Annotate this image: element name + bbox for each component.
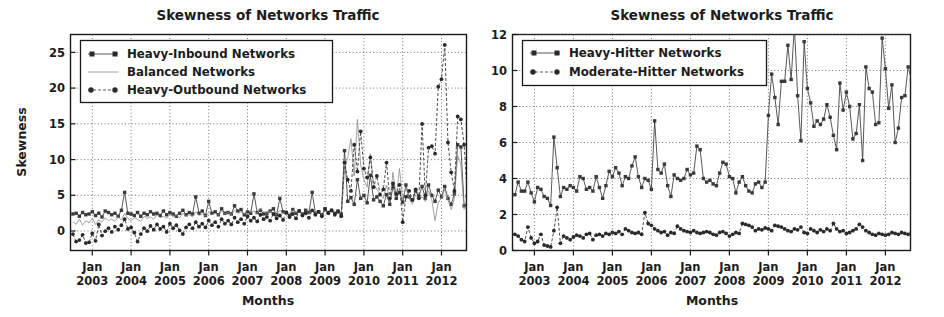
series-marker <box>845 232 849 236</box>
series-marker <box>255 220 259 224</box>
series-marker <box>741 222 745 226</box>
series-marker <box>854 132 857 135</box>
series-marker <box>617 171 620 174</box>
series-marker <box>200 222 204 226</box>
series-marker <box>323 207 327 211</box>
legend-label: Balanced Networks <box>127 65 255 79</box>
series-marker <box>806 87 809 90</box>
series-marker <box>317 210 321 214</box>
series-marker <box>721 161 724 164</box>
series-marker <box>572 235 576 239</box>
series-marker <box>310 208 314 212</box>
square-marker-icon <box>90 52 95 57</box>
series-marker <box>598 186 601 189</box>
series-marker <box>828 229 832 233</box>
series-marker <box>565 188 568 191</box>
series-marker <box>272 207 275 210</box>
series-marker <box>624 175 627 178</box>
xtick-label-year: 2003 <box>76 274 108 288</box>
series-marker <box>611 231 615 235</box>
series-marker <box>116 228 120 232</box>
series-marker <box>559 241 563 245</box>
series-marker <box>420 185 423 188</box>
series-marker <box>653 119 656 122</box>
series-marker <box>152 228 156 232</box>
xtick-label-month: Jan <box>120 260 141 274</box>
series-marker <box>181 209 184 212</box>
series-marker <box>630 164 633 167</box>
series-marker <box>910 78 913 81</box>
left-chart-svg: Skewness of Networks Traffic <box>0 0 472 317</box>
series-marker <box>333 213 337 217</box>
series-marker <box>201 209 204 212</box>
series-marker <box>737 232 741 236</box>
series-marker <box>887 232 891 236</box>
series-marker <box>815 231 819 235</box>
series-marker <box>646 179 649 182</box>
series-marker <box>395 197 398 200</box>
series-marker <box>611 175 614 178</box>
right-panel: Skewness of Networks Traffic <box>472 0 944 317</box>
xtick-label-year: 2006 <box>193 274 225 288</box>
series-marker <box>627 229 631 233</box>
series-marker <box>835 227 839 231</box>
xtick-label-year: 2009 <box>752 274 784 288</box>
series-marker <box>110 213 113 216</box>
series-marker <box>936 116 939 119</box>
series-marker <box>320 214 324 218</box>
ytick-label: 0 <box>57 224 65 238</box>
series-marker <box>744 184 747 187</box>
series-marker <box>194 220 198 224</box>
series-marker <box>356 170 360 174</box>
series-marker <box>84 213 87 216</box>
series-marker <box>695 144 698 147</box>
series-marker <box>365 201 368 204</box>
series-marker <box>594 175 597 178</box>
series-marker <box>233 204 236 207</box>
series-marker <box>113 225 117 229</box>
series-marker <box>747 189 750 192</box>
series-marker <box>136 211 139 214</box>
series-marker <box>838 81 841 84</box>
series-marker <box>242 222 246 226</box>
xtick-label-year: 2006 <box>635 274 667 288</box>
series-marker <box>162 209 165 212</box>
ytick-label: 10 <box>491 64 507 78</box>
series-marker <box>897 126 900 129</box>
series-marker <box>812 229 816 233</box>
series-marker <box>750 191 753 194</box>
series-marker <box>711 232 715 236</box>
series-marker <box>858 103 861 106</box>
xtick-label-month: Jan <box>757 260 778 274</box>
series-marker <box>352 143 356 147</box>
series-marker <box>187 223 191 227</box>
series-marker <box>443 185 446 188</box>
series-marker <box>770 72 773 75</box>
left-legend[interactable]: Heavy-Inbound Networks Balanced Networks… <box>81 41 333 103</box>
series-marker <box>679 179 682 182</box>
right-legend[interactable]: Heavy-Hitter Networks Moderate-Hitter Ne… <box>523 41 767 86</box>
series-marker <box>832 222 836 226</box>
series-marker <box>220 207 223 210</box>
series-marker <box>819 228 823 232</box>
series-marker <box>578 175 581 178</box>
series-marker <box>646 222 650 226</box>
series-marker <box>682 229 686 233</box>
right-chart-title: Skewness of Networks Traffic <box>611 7 834 23</box>
series-marker <box>594 233 598 237</box>
xtick-label-year: 2010 <box>348 274 380 288</box>
series-marker <box>786 229 790 233</box>
series-marker <box>585 188 588 191</box>
series-marker <box>103 229 107 233</box>
series-marker <box>294 217 298 221</box>
ytick-label: 12 <box>491 28 507 42</box>
series-marker <box>97 212 100 215</box>
series-marker <box>385 161 389 165</box>
series-marker <box>539 232 543 236</box>
series-marker <box>265 215 269 219</box>
series-marker <box>578 234 582 238</box>
ytick-label: 5 <box>57 188 65 202</box>
series-marker <box>591 189 594 192</box>
xtick-label-month: Jan <box>236 260 257 274</box>
series-marker <box>893 141 896 144</box>
